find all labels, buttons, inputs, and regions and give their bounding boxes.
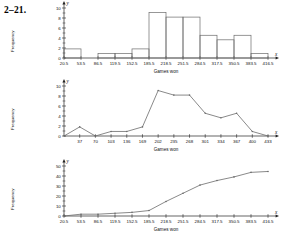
x-tick-label: 334 (217, 139, 225, 144)
x-tick-label: 202 (154, 139, 162, 144)
histogram-chart: yx0246810Games won20.553.586.5119.5152.5… (40, 0, 290, 78)
data-point (63, 135, 65, 137)
histogram-bar (132, 49, 149, 58)
data-point (236, 112, 238, 114)
x-tick-label: 53.5 (77, 219, 86, 224)
x-tick-label: 350.5 (229, 219, 241, 224)
data-point (250, 172, 252, 174)
histogram-bar (98, 53, 115, 58)
data-point (97, 213, 99, 215)
x-tick-label: 235 (170, 139, 178, 144)
x-tick-label: 86.5 (94, 61, 103, 66)
data-point (182, 192, 184, 194)
x-tick-label: 284.5 (195, 61, 207, 66)
x-tick-label: 20.5 (60, 219, 69, 224)
y-axis-letter: y (66, 78, 70, 84)
x-axis-title: Games won (154, 227, 179, 232)
x-tick-label: 70 (93, 139, 98, 144)
data-point (233, 176, 235, 178)
histogram-svg: yx0246810Games won20.553.586.5119.5152.5… (40, 0, 290, 78)
y-axis-arrow (62, 1, 65, 4)
x-tick-label: 185.5 (144, 61, 156, 66)
histogram-bar (200, 35, 217, 58)
y-tick-label: 2 (58, 46, 61, 51)
y-tick-label: 10 (56, 84, 61, 89)
y-tick-label: 4 (58, 114, 61, 119)
data-point (95, 135, 97, 137)
data-point (148, 210, 150, 212)
histogram-bar (115, 53, 132, 58)
data-point (252, 131, 254, 133)
y-tick-label: 50 (56, 164, 61, 169)
x-tick-label: 185.5 (144, 219, 156, 224)
histogram-bar (183, 17, 200, 58)
data-point (173, 94, 175, 96)
data-point (80, 213, 82, 215)
x-tick-label: 301 (202, 139, 210, 144)
histogram-bar (251, 53, 268, 58)
x-tick-label: 416.5 (263, 61, 275, 66)
x-tick-label: 103 (107, 139, 115, 144)
x-axis-letter: x (274, 51, 278, 57)
x-tick-label: 136 (123, 139, 131, 144)
x-tick-label: 383.5 (246, 61, 258, 66)
x-tick-label: 37 (77, 139, 82, 144)
data-point (267, 135, 269, 137)
y-axis-letter: y (66, 0, 70, 6)
y-tick-label: 8 (58, 94, 61, 99)
x-tick-label: 383.5 (246, 219, 258, 224)
frequency-polygon-chart: yx0246810Games won3770103136169202235268… (40, 78, 290, 156)
y-tick-label: 40 (56, 174, 61, 179)
y-axis-letter: y (66, 158, 70, 164)
x-tick-label: 317.5 (212, 61, 224, 66)
data-point (267, 171, 269, 173)
x-tick-label: 251.5 (178, 219, 190, 224)
x-tick-label: 317.5 (212, 219, 224, 224)
data-point (114, 212, 116, 214)
x-tick-label: 350.5 (229, 61, 241, 66)
data-point (199, 184, 201, 186)
y-tick-label: 2 (58, 124, 61, 129)
x-tick-label: 119.5 (110, 61, 121, 66)
x-axis-arrow (276, 134, 279, 137)
x-axis-letter: x (274, 209, 278, 215)
x-tick-label: 86.5 (94, 219, 103, 224)
x-tick-label: 152.5 (127, 219, 139, 224)
data-point (63, 215, 65, 217)
y-tick-label: 0 (58, 56, 61, 61)
data-point (131, 212, 133, 214)
y-tick-label: 30 (56, 184, 61, 189)
ogive-svg: yx01020304050Games won20.553.586.5119.51… (40, 158, 290, 238)
data-point (110, 131, 112, 133)
data-point (216, 180, 218, 182)
x-tick-label: 152.5 (127, 61, 139, 66)
histogram-bar (149, 13, 166, 58)
y-tick-label: 20 (56, 194, 61, 199)
ogive-line (64, 171, 268, 216)
y-tick-label: 6 (58, 104, 61, 109)
x-tick-label: 284.5 (195, 219, 207, 224)
x-tick-label: 268 (186, 139, 194, 144)
y-tick-label: 10 (56, 204, 61, 209)
x-tick-label: 251.5 (178, 61, 190, 66)
x-tick-label: 433 (264, 139, 272, 144)
chart1-y-axis-title: Frequency (10, 30, 15, 52)
x-axis-title: Games won (154, 69, 179, 74)
x-axis-letter: x (274, 129, 278, 135)
data-point (142, 126, 144, 128)
x-axis-arrow (276, 214, 279, 217)
x-axis-arrow (276, 56, 279, 59)
y-tick-label: 0 (58, 134, 61, 139)
data-point (220, 117, 222, 119)
problem-number: 2–21. (4, 5, 26, 15)
x-tick-label: 119.5 (110, 219, 121, 224)
y-tick-label: 4 (58, 36, 61, 41)
chart2-y-axis-title: Frequency (10, 108, 15, 130)
x-tick-label: 169 (139, 139, 147, 144)
data-point (204, 112, 206, 114)
data-point (79, 126, 81, 128)
y-axis-arrow (62, 79, 65, 82)
data-point (165, 201, 167, 203)
data-point (157, 90, 159, 92)
y-tick-label: 8 (58, 16, 61, 21)
